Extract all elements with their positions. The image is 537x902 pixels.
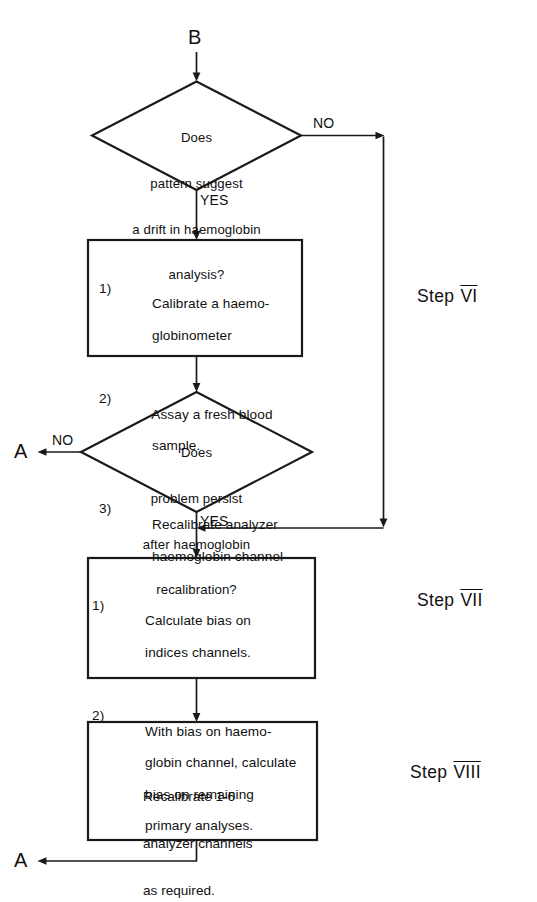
process-recalibrate-text: Recalibrate 1-6 analyzer channels as req… <box>143 757 308 902</box>
connector-label-a-middle: A <box>14 440 28 463</box>
step-label-7: Step VII <box>417 590 484 610</box>
step-label-8-word: Step <box>410 762 447 782</box>
step-label-7-numeral: VII <box>459 590 483 610</box>
decision-persist-no-label: NO <box>52 432 73 448</box>
process-bias-item-1: 1) Calculate bias on indices channels. <box>92 598 314 677</box>
decision-persist-no-branch <box>38 448 82 456</box>
process-calibrate-item-1-number: 1) <box>99 281 121 360</box>
process-calibrate-item-1: 1) Calibrate a haemo- globinometer <box>99 281 295 360</box>
decision-drift-line-2: pattern suggest <box>86 176 307 191</box>
entry-arrow-b <box>193 52 201 82</box>
process-calibrate-item-1-body: Calibrate a haemo- globinometer <box>121 281 295 360</box>
process-bias-item-2-line-1: With bias on haemo- <box>145 724 272 739</box>
process-bias-item-1-line-1: Calculate bias on <box>145 613 251 628</box>
decision-persist-yes-label: YES <box>200 513 229 529</box>
process-bias-item-2-number: 2) <box>92 708 114 850</box>
step-label-7-word: Step <box>417 590 454 610</box>
decision-drift-no-branch <box>301 132 387 528</box>
connector-label-a-bottom: A <box>14 849 28 872</box>
process-bias-item-1-body: Calculate bias on indices channels. <box>114 598 314 677</box>
process-bias-item-1-number: 1) <box>92 598 114 677</box>
decision-drift-line-3: a drift in haemoglobin <box>86 222 307 237</box>
process-recalibrate-line-1: Recalibrate 1-6 <box>143 789 308 805</box>
process-calibrate-item-1-line-1: Calibrate a haemo- <box>152 296 269 311</box>
process-recalibrate-line-3: as required. <box>143 883 308 899</box>
step-label-8-numeral: VIII <box>452 762 481 782</box>
step-label-6-word: Step <box>417 286 454 306</box>
process-recalibrate-line-2: analyzer channels <box>143 836 308 852</box>
step-label-6: Step VI <box>417 286 479 306</box>
connector-label-b: B <box>188 26 202 49</box>
decision-persist-line-2: problem persist <box>86 491 307 506</box>
process-calibrate-item-1-line-2: globinometer <box>152 328 232 343</box>
decision-persist-line-3: after haemoglobin <box>86 537 307 552</box>
decision-drift-no-label: NO <box>313 115 334 131</box>
process-bias-item-1-line-2: indices channels. <box>145 645 251 660</box>
decision-persist-line-1: Does <box>86 445 307 460</box>
decision-drift-line-1: Does <box>86 130 307 145</box>
step-label-8: Step VIII <box>410 762 482 782</box>
decision-drift-yes-label: YES <box>200 192 229 208</box>
step-label-6-numeral: VI <box>459 286 478 306</box>
